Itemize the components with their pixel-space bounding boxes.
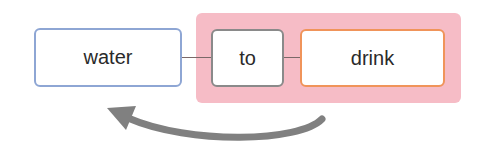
curved-arrow-icon <box>0 0 486 155</box>
